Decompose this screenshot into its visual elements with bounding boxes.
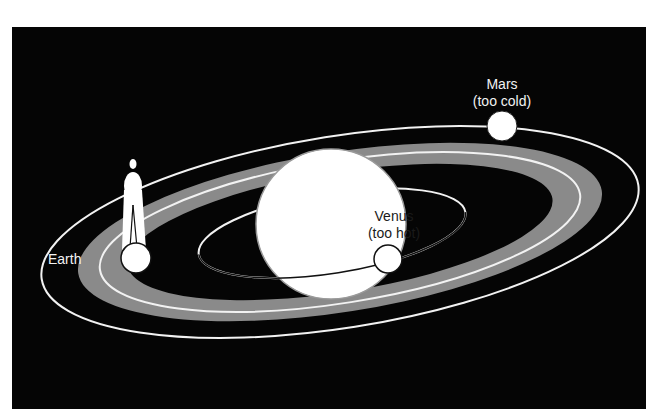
venus-label: Venus (too hot) — [354, 208, 434, 242]
mars-label: Mars (too cold) — [462, 76, 542, 110]
venus-planet — [374, 245, 402, 273]
mars-planet — [487, 111, 517, 141]
person-icon — [122, 159, 146, 250]
venus-note: (too hot) — [354, 225, 434, 242]
earth-planet — [121, 243, 151, 273]
orbit-diagram — [0, 0, 654, 415]
mars-note: (too cold) — [462, 93, 542, 110]
mars-name: Mars — [462, 76, 542, 93]
venus-name: Venus — [354, 208, 434, 225]
earth-label: Earth — [48, 251, 81, 268]
